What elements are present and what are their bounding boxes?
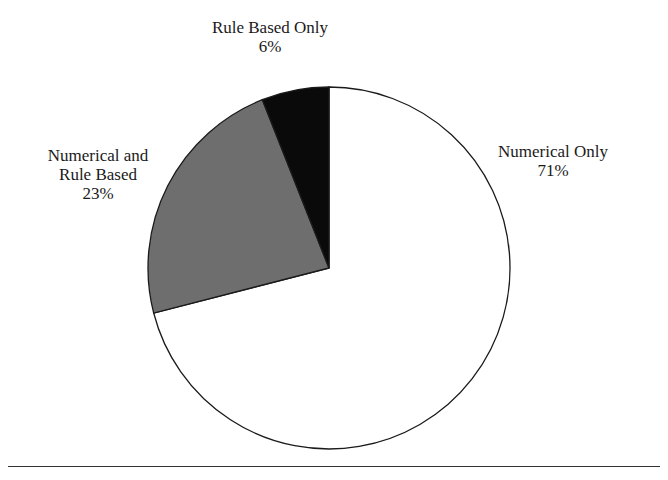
label-rule-based-only-name: Rule Based Only xyxy=(180,18,360,37)
pie-chart xyxy=(0,0,668,480)
horizontal-divider xyxy=(8,466,660,467)
label-rule-based-only-pct: 6% xyxy=(180,37,360,56)
label-numerical-and-rule-based-line1: Numerical and xyxy=(8,146,188,165)
label-numerical-only: Numerical Only 71% xyxy=(478,142,628,180)
label-numerical-and-rule-based: Numerical and Rule Based 23% xyxy=(8,146,188,203)
label-numerical-only-name: Numerical Only xyxy=(478,142,628,161)
label-numerical-and-rule-based-line2: Rule Based xyxy=(8,165,188,184)
label-rule-based-only: Rule Based Only 6% xyxy=(180,18,360,56)
label-numerical-and-rule-based-pct: 23% xyxy=(8,184,188,203)
label-numerical-only-pct: 71% xyxy=(478,161,628,180)
